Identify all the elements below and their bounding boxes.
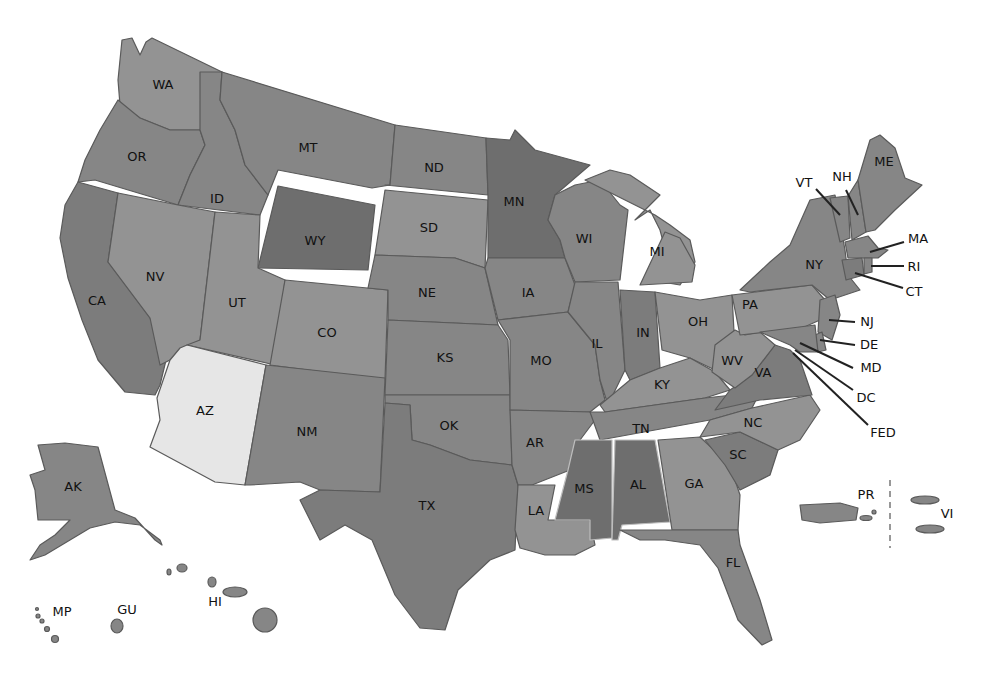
label-ok: OK [440, 418, 459, 433]
label-mt: MT [298, 140, 317, 155]
label-pa: PA [742, 297, 758, 312]
label-ca: CA [88, 293, 106, 308]
label-hi: HI [208, 594, 222, 609]
territory-pr[interactable] [800, 503, 876, 523]
label-vi: VI [941, 506, 954, 521]
state-wy[interactable] [258, 186, 375, 270]
label-mp: MP [52, 604, 71, 619]
us-states-map: WA OR CA ID NV MT WY UT AZ CO NM ND SD N… [0, 0, 984, 679]
label-mi: MI [649, 244, 664, 259]
label-pr: PR [858, 487, 875, 502]
label-ri: RI [908, 259, 921, 274]
label-vt: VT [796, 175, 813, 190]
label-ks: KS [437, 350, 454, 365]
label-md: MD [860, 360, 881, 375]
label-ct: CT [905, 284, 922, 299]
label-tx: TX [418, 498, 436, 513]
label-az: AZ [196, 403, 214, 418]
label-gu: GU [117, 602, 137, 617]
territory-vi[interactable] [911, 496, 944, 533]
label-nd: ND [424, 160, 444, 175]
label-ut: UT [228, 295, 246, 310]
territory-gu[interactable] [111, 619, 123, 633]
label-la: LA [528, 503, 545, 518]
label-nm: NM [297, 424, 318, 439]
label-wy: WY [305, 233, 326, 248]
label-ia: IA [522, 285, 535, 300]
label-fed: FED [870, 425, 896, 440]
label-sd: SD [420, 220, 438, 235]
label-ny: NY [805, 257, 823, 272]
state-ak[interactable] [30, 443, 162, 560]
label-wa: WA [152, 77, 173, 92]
label-nv: NV [146, 269, 165, 284]
label-nc: NC [744, 415, 763, 430]
label-sc: SC [729, 447, 746, 462]
label-ms: MS [574, 481, 593, 496]
label-ne: NE [418, 285, 436, 300]
label-dc: DC [856, 390, 875, 405]
label-ak: AK [64, 479, 82, 494]
label-ar: AR [526, 435, 544, 450]
state-ri[interactable] [864, 258, 872, 274]
label-mo: MO [530, 353, 551, 368]
state-ct[interactable] [842, 258, 864, 280]
label-nj: NJ [860, 314, 874, 329]
label-al: AL [630, 477, 647, 492]
state-fl[interactable] [620, 530, 772, 645]
label-or: OR [127, 149, 146, 164]
label-ga: GA [685, 476, 704, 491]
state-hi[interactable] [167, 564, 277, 632]
label-co: CO [317, 325, 336, 340]
label-tn: TN [631, 421, 650, 436]
label-ky: KY [654, 377, 670, 392]
label-va: VA [755, 365, 772, 380]
label-wi: WI [576, 231, 593, 246]
label-oh: OH [688, 314, 708, 329]
label-de: DE [860, 337, 878, 352]
label-nh: NH [832, 169, 852, 184]
state-me[interactable] [858, 135, 922, 232]
label-il: IL [591, 336, 603, 351]
label-fl: FL [726, 555, 741, 570]
label-in: IN [636, 325, 650, 340]
label-wv: WV [721, 353, 743, 368]
label-mn: MN [504, 194, 525, 209]
label-ma: MA [908, 231, 928, 246]
label-id: ID [210, 191, 224, 206]
label-me: ME [874, 154, 893, 169]
